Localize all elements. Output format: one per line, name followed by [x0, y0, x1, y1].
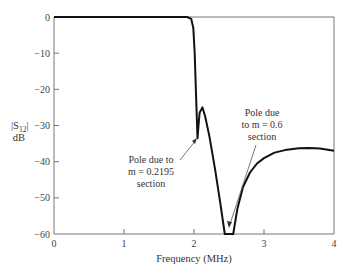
svg-text:Pole due: Pole due [245, 107, 280, 118]
x-tick-label: 1 [122, 238, 127, 249]
x-tick-label: 0 [52, 238, 57, 249]
annotation-pole-m02195: Pole due to m = 0.2195 section [128, 138, 197, 189]
x-tick-label: 2 [192, 238, 197, 249]
y-tick-label: −20 [34, 84, 50, 95]
svg-text:section: section [248, 131, 276, 142]
x-axis-title: Frequency (MHz) [156, 253, 232, 265]
svg-text:m = 0.2195: m = 0.2195 [128, 166, 174, 177]
svg-text:to m = 0.6: to m = 0.6 [241, 119, 282, 130]
y-tick-label: −40 [34, 156, 50, 167]
x-tick-label: 4 [332, 238, 337, 249]
svg-text:Pole due to: Pole due to [129, 154, 174, 165]
y-tick-label: 0 [45, 12, 50, 23]
y-tick-label: −50 [34, 192, 50, 203]
y-tick-label: −60 [34, 229, 50, 240]
x-tick-label: 3 [262, 238, 267, 249]
y-axis-unit: dB [13, 132, 25, 143]
y-axis: 0−10−20−30−40−50−60 [34, 12, 59, 240]
s12-curve [54, 17, 334, 234]
chart: 0−10−20−30−40−50−60 01234 Frequency (MHz… [0, 0, 345, 276]
y-tick-label: −10 [34, 48, 50, 59]
svg-text:section: section [137, 178, 165, 189]
x-axis: 01234 [52, 229, 337, 249]
y-tick-label: −30 [34, 120, 50, 131]
